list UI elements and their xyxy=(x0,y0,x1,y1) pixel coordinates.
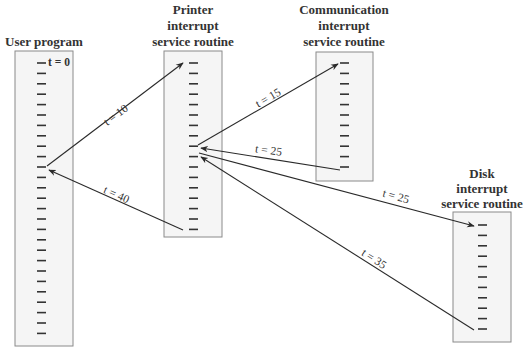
transfer-time-label: t = 15 xyxy=(253,85,283,109)
routine-communication: Communicationinterruptservice routine xyxy=(299,2,389,181)
routine-title-communication: interrupt xyxy=(318,18,370,33)
transfer-time-label: t = 25 xyxy=(254,142,283,158)
routine-title-printer: interrupt xyxy=(167,18,219,33)
routine-title-communication: service routine xyxy=(303,34,385,49)
routine-title-communication: Communication xyxy=(299,2,389,17)
routine-title-disk: interrupt xyxy=(456,181,508,196)
routine-title-printer: service routine xyxy=(152,34,234,49)
routine-title-disk: Disk xyxy=(469,166,495,181)
routine-disk: Diskinterruptservice routine xyxy=(441,166,523,342)
routine-title-user: User program xyxy=(5,34,83,49)
routine-title-printer: Printer xyxy=(173,2,214,17)
control-transfer-arrow xyxy=(201,157,474,330)
transfer-time-label: t = 40 xyxy=(102,183,132,205)
routines-layer: User programPrinterinterruptservice rout… xyxy=(5,2,523,346)
routine-title-disk: service routine xyxy=(441,196,523,211)
start-time-label: t = 0 xyxy=(48,56,70,68)
interrupt-timeline-diagram: User programPrinterinterruptservice rout… xyxy=(0,0,530,353)
routine-printer: Printerinterruptservice routine xyxy=(152,2,234,237)
routine-user: User program xyxy=(5,34,83,346)
